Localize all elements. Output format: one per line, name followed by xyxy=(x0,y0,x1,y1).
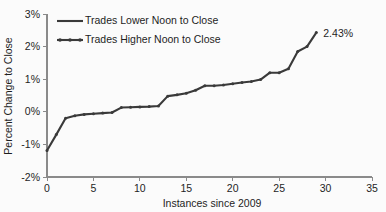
x-tick-label: 10 xyxy=(134,182,146,194)
data-point xyxy=(176,93,179,96)
data-point xyxy=(306,45,309,48)
x-tick-label: 15 xyxy=(180,182,192,194)
chart-legend: Trades Lower Noon to CloseTrades Higher … xyxy=(57,14,221,45)
data-point xyxy=(231,82,234,85)
data-point xyxy=(268,71,271,74)
data-point xyxy=(250,80,253,83)
data-point xyxy=(120,106,123,109)
data-point-label: 2.43% xyxy=(323,27,353,39)
y-tick-label: -2% xyxy=(21,171,40,183)
data-point xyxy=(213,84,216,87)
legend-marker-dot xyxy=(68,38,72,42)
x-tick-label: 5 xyxy=(91,182,97,194)
y-tick-label: 3% xyxy=(25,8,40,20)
data-point xyxy=(55,133,58,136)
data-point xyxy=(296,50,299,53)
data-point xyxy=(46,149,49,152)
x-tick-label: 0 xyxy=(44,182,50,194)
y-tick-label: 2% xyxy=(25,40,40,52)
data-point xyxy=(148,105,151,108)
x-axis-ticks: 05101520253035 xyxy=(44,177,378,194)
data-point xyxy=(278,71,281,74)
data-point xyxy=(185,92,188,95)
y-tick-label: 1% xyxy=(25,73,40,85)
x-tick-label: 25 xyxy=(273,182,285,194)
data-point xyxy=(315,31,318,34)
data-point xyxy=(101,112,104,115)
x-tick-label: 30 xyxy=(320,182,332,194)
legend-marker-dot xyxy=(58,38,62,42)
legend-label: Trades Higher Noon to Close xyxy=(85,33,221,45)
data-point xyxy=(111,111,114,114)
data-point xyxy=(222,84,225,87)
data-point xyxy=(157,104,160,107)
data-point xyxy=(241,81,244,84)
x-tick-label: 35 xyxy=(366,182,378,194)
data-point xyxy=(92,112,95,115)
chart-container: -2%-1%0%1%2%3% 05101520253035 2.43% Trad… xyxy=(0,0,386,212)
data-point xyxy=(259,78,262,81)
legend-label: Trades Lower Noon to Close xyxy=(85,14,218,26)
data-point xyxy=(166,95,169,98)
data-point xyxy=(129,106,132,109)
y-axis-title: Percent Change to Close xyxy=(2,37,14,154)
x-tick-label: 20 xyxy=(227,182,239,194)
y-tick-label: 0% xyxy=(25,105,40,117)
data-point xyxy=(194,89,197,92)
y-tick-label: -1% xyxy=(21,138,40,150)
data-series-group xyxy=(47,33,316,151)
data-markers-group xyxy=(46,31,318,152)
y-axis-ticks: -2%-1%0%1%2%3% xyxy=(21,8,47,183)
x-axis-title: Instances since 2009 xyxy=(163,197,262,209)
data-point xyxy=(138,105,141,108)
data-point xyxy=(203,84,206,87)
data-point xyxy=(287,67,290,70)
data-point xyxy=(64,117,67,120)
data-point xyxy=(83,113,86,116)
line-chart: -2%-1%0%1%2%3% 05101520253035 2.43% Trad… xyxy=(0,0,386,212)
data-point xyxy=(73,114,76,117)
legend-marker-dot xyxy=(78,38,82,42)
series-line xyxy=(47,33,316,151)
data-point-label-group: 2.43% xyxy=(323,27,353,39)
